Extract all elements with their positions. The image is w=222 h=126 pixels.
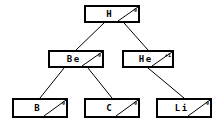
tree-edge-h-be xyxy=(76,23,104,50)
tree-edge-be-b xyxy=(40,68,64,98)
tree-edge-be-c xyxy=(88,68,112,98)
tree-edge-he-li xyxy=(148,68,184,98)
tree-node-li[interactable]: Li0 xyxy=(156,98,212,118)
tree-node-charge-li: 0 xyxy=(206,100,209,106)
tree-node-label-be: Be xyxy=(50,52,102,66)
tree-diagram-canvas: H0Be0He+1B0C0Li0 xyxy=(0,0,222,126)
tree-node-label-h: H xyxy=(86,7,138,21)
tree-node-label-li: Li xyxy=(158,100,210,116)
tree-node-be[interactable]: Be0 xyxy=(48,50,104,68)
tree-node-charge-he: +1 xyxy=(165,52,171,58)
tree-node-label-c: C xyxy=(86,100,138,116)
tree-edge-h-he xyxy=(124,23,148,50)
tree-node-charge-b: 0 xyxy=(62,100,65,106)
tree-node-label-b: B xyxy=(14,100,66,116)
tree-node-charge-h: 0 xyxy=(134,7,137,13)
tree-node-he[interactable]: He+1 xyxy=(122,50,174,68)
tree-node-c[interactable]: C0 xyxy=(84,98,140,118)
tree-node-b[interactable]: B0 xyxy=(12,98,68,118)
tree-node-charge-c: 0 xyxy=(134,100,137,106)
tree-node-h[interactable]: H0 xyxy=(84,5,140,23)
tree-node-charge-be: 0 xyxy=(98,52,101,58)
